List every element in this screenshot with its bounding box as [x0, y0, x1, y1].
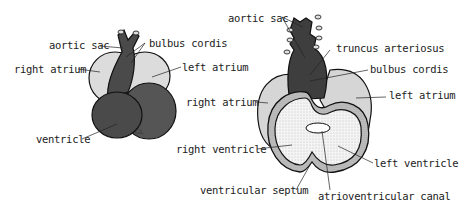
- label-aortic-sac-early: aortic sac: [49, 39, 109, 51]
- artist-signature: GL: [135, 128, 144, 135]
- label-ventricle-early: ventricle: [36, 133, 90, 145]
- label-bulbus-cordis-later: bulbus cordis: [370, 63, 448, 75]
- label-bulbus-cordis-early: bulbus cordis: [149, 37, 227, 49]
- label-right-atrium-later: right atrium: [186, 96, 258, 108]
- label-right-atrium-early: right atrium: [14, 63, 86, 75]
- label-left-atrium-early: left atrium: [182, 61, 248, 73]
- label-aortic-sac-later: aortic sac: [228, 12, 288, 24]
- label-left-ventricle: left ventricle: [374, 157, 458, 169]
- label-left-atrium-later: left atrium: [389, 89, 455, 101]
- label-ventricular-septum: ventricular septum: [200, 184, 308, 196]
- right-fig-truncus-arteriosus-shape: [288, 18, 327, 100]
- heart-development-diagram: aortic sac bulbus cordis right atrium le…: [0, 0, 459, 212]
- label-truncus-arteriosus: truncus arteriosus: [336, 42, 444, 54]
- label-right-ventricle: right ventricle: [176, 143, 266, 155]
- right-fig-av-canal-shape: [306, 123, 330, 133]
- label-atrioventricular-canal: atrioventricular canal: [318, 190, 450, 202]
